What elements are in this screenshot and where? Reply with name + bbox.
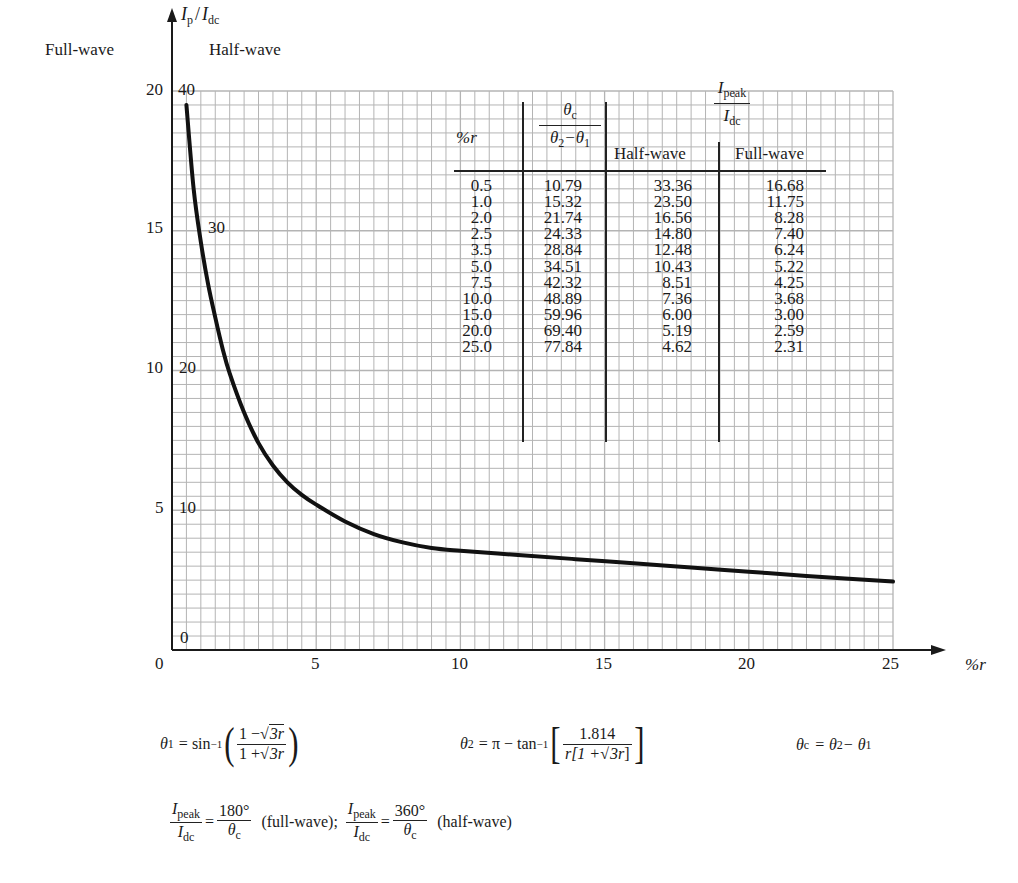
- theta2-den-a: r[1 +: [565, 745, 600, 762]
- x-tick-0: 0: [155, 654, 164, 674]
- y-tick-full-10: 10: [146, 358, 163, 378]
- theta1-den-sqrt: 3r: [269, 744, 284, 762]
- half-rhs-num: 360°: [393, 802, 427, 820]
- half-lhs-fraction: Ipeak Idc: [346, 800, 378, 845]
- y-axis-arrow-icon: [167, 8, 177, 22]
- table-header-ipeak-idc: Ipeak Idc: [712, 78, 752, 129]
- formula-thetac: θc = θ2 − θ1: [796, 736, 872, 754]
- half-wave-note: (half-wave): [437, 813, 512, 831]
- x-tick-5: 5: [311, 654, 320, 674]
- cell-full-wave: 2.31: [452, 339, 804, 355]
- y-tick-half-30: 30: [208, 218, 225, 238]
- y-tick-half-40: 40: [178, 80, 195, 100]
- cell-full-wave: 2.59: [452, 323, 804, 339]
- y-tick-half-20: 20: [179, 358, 196, 378]
- full-rhs-num: 180°: [217, 802, 251, 820]
- cell-full-wave: 11.75: [452, 194, 804, 210]
- half-lhs-den-sub: dc: [359, 830, 370, 844]
- theta1-sub: 1: [584, 136, 590, 150]
- theta1-num-a: 1 −: [239, 725, 260, 742]
- full-wave-note: (full-wave);: [261, 813, 337, 831]
- y-label-sub-dc: dc: [208, 13, 219, 27]
- table-header-full-wave: Full-wave: [735, 144, 804, 164]
- theta2-num: 1.814: [577, 725, 617, 743]
- open-bracket: [: [550, 722, 560, 766]
- x-tick-10: 10: [451, 654, 468, 674]
- cell-full-wave: 3.68: [452, 291, 804, 307]
- y-tick-half-0: 0: [180, 628, 189, 648]
- theta1-eq: = sin: [179, 735, 211, 753]
- grid-lines: [172, 91, 893, 650]
- theta1-lhs-sub: 1: [168, 737, 174, 752]
- close-paren: ): [288, 722, 298, 766]
- theta1-den-a: 1 +: [239, 745, 260, 762]
- open-paren: (: [224, 722, 234, 766]
- theta2-den-sqrt: 3r: [609, 744, 624, 762]
- cell-full-wave: 16.68: [452, 178, 804, 194]
- half-rhs-fraction: 360° θc: [393, 802, 427, 843]
- theta1-num-sqrt: 3r: [269, 724, 284, 742]
- formula-theta2: θ2 = π − tan−1 [ 1.814 r[1 +√3r] ]: [460, 722, 646, 766]
- thetac-eq: = θ: [814, 736, 837, 754]
- y-label-sub-p: p: [187, 13, 193, 27]
- table-header-rule: [454, 170, 826, 172]
- full-lhs-num-sub: peak: [177, 807, 200, 821]
- cell-full-wave: 5.22: [452, 259, 804, 275]
- x-axis-arrow-icon: [931, 645, 946, 655]
- y-tick-full-5: 5: [155, 498, 164, 518]
- y-tick-full-15: 15: [146, 218, 163, 238]
- full-rhs-fraction: 180° θc: [217, 802, 251, 843]
- full-wave-scale-header: Full-wave: [45, 40, 114, 60]
- close-bracket: ]: [634, 722, 644, 766]
- x-tick-20: 20: [738, 654, 755, 674]
- idc-sub: dc: [729, 114, 740, 128]
- thetac-minus: − θ: [843, 736, 866, 754]
- y-tick-full-20: 20: [146, 80, 163, 100]
- thetac-sub1: 1: [866, 738, 872, 753]
- y-label-separator: /: [195, 4, 200, 24]
- x-tick-15: 15: [595, 654, 612, 674]
- cell-full-wave: 8.28: [452, 210, 804, 226]
- table-header-r: %r: [456, 128, 477, 148]
- x-axis-title: %r: [965, 655, 986, 675]
- cell-full-wave: 7.40: [452, 226, 804, 242]
- theta1-symbol: −θ: [564, 128, 584, 147]
- half-wave-scale-header: Half-wave: [209, 40, 281, 60]
- theta-c-sub: c: [572, 108, 577, 122]
- thetac-lhs: θ: [796, 736, 804, 754]
- theta2-lhs: θ: [460, 735, 468, 753]
- cell-full-wave: 4.25: [452, 275, 804, 291]
- theta2-symbol: θ: [550, 128, 558, 147]
- theta2-fraction: 1.814 r[1 +√3r]: [563, 725, 632, 763]
- ipeak-fraction-bar: [714, 103, 750, 104]
- y-axis-title: Ip/Idc: [181, 4, 219, 28]
- theta1-lhs: θ: [160, 735, 168, 753]
- full-rhs-den-sub: c: [235, 828, 240, 842]
- theta2-eq: = π − tan: [479, 735, 537, 753]
- x-tick-25: 25: [882, 654, 899, 674]
- formula-theta1: θ1 = sin−1 ( 1 −√3r 1 +√3r ): [160, 722, 301, 766]
- cell-full-wave: 3.00: [452, 307, 804, 323]
- theta-c-symbol: θ: [563, 100, 571, 119]
- theta2-sup: −1: [537, 738, 549, 750]
- full-lhs-den-sub: dc: [183, 830, 194, 844]
- full-lhs-fraction: Ipeak Idc: [170, 800, 202, 845]
- cell-full-wave: 6.24: [452, 242, 804, 258]
- table-header-theta: θc θ2−θ1: [535, 100, 605, 151]
- formula-ipeak-ratios: Ipeak Idc = 180° θc (full-wave); Ipeak I…: [170, 800, 512, 845]
- theta2-lhs-sub: 2: [468, 737, 474, 752]
- half-rhs-den-sub: c: [411, 828, 416, 842]
- y-tick-half-10: 10: [179, 498, 196, 518]
- theta-fraction-bar: [539, 125, 601, 126]
- theta1-sup: −1: [211, 738, 223, 750]
- ipeak-sub: peak: [724, 86, 747, 100]
- thetac-lhs-sub: c: [804, 738, 809, 753]
- theta1-fraction: 1 −√3r 1 +√3r: [237, 725, 286, 763]
- theta2-den-b: ]: [624, 745, 629, 762]
- half-lhs-num-sub: peak: [353, 807, 376, 821]
- table-header-half-wave: Half-wave: [614, 144, 686, 164]
